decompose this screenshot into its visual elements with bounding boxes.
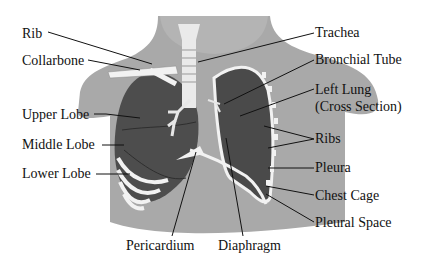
label-trachea: Trachea [315,25,360,40]
label-rib: Rib [22,26,42,41]
label-diaphragm: Diaphragm [218,238,281,253]
label-pleural-space: Pleural Space [315,215,392,230]
label-lower-lobe: Lower Lobe [22,166,91,181]
label-left-lung-cross-section: (Cross Section) [315,99,402,114]
label-chest-cage: Chest Cage [315,188,379,203]
label-bronchial-tube: Bronchial Tube [315,52,402,67]
label-pericardium: Pericardium [126,238,194,253]
label-middle-lobe: Middle Lobe [22,137,95,152]
label-upper-lobe: Upper Lobe [22,107,89,122]
label-left-lung: Left Lung [315,82,371,97]
label-ribs: Ribs [315,131,341,146]
label-collarbone: Collarbone [22,53,84,68]
trachea-shape [182,36,196,108]
label-pleura: Pleura [315,160,351,175]
